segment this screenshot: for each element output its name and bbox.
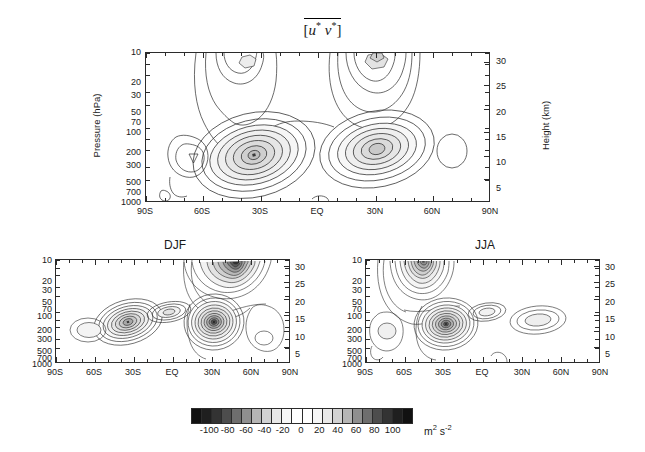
axis-tick-mark (470, 260, 471, 263)
axis-tick-mark (376, 53, 377, 58)
axis-tick-mark (173, 260, 174, 265)
axis-tick-mark (484, 156, 489, 157)
axis-tick-mark (485, 150, 489, 151)
axis-tick-mark (470, 359, 471, 362)
axis-tick-mark (484, 179, 489, 180)
panel-title-djf: DJF (60, 238, 290, 252)
axis-tick-mark (241, 53, 242, 56)
annual-height-tick-20: 20 (496, 107, 522, 117)
axis-tick-mark (594, 331, 599, 332)
axis-tick-mark (56, 268, 60, 269)
axis-tick-mark (56, 357, 57, 362)
axis-tick-mark (146, 128, 150, 129)
axis-title-height: Height (km) (540, 76, 551, 176)
jja-height-tick-20: 20 (605, 297, 629, 307)
jja-ytick-100: 100 (332, 311, 362, 321)
axis-tick-mark (595, 287, 599, 288)
axis-tick-mark (261, 53, 262, 58)
axis-tick-mark (146, 105, 150, 106)
annual-ytick-300: 300 (108, 160, 141, 170)
axis-tick-mark (444, 260, 445, 265)
axis-tick-mark (418, 359, 419, 362)
axis-tick-mark (366, 287, 370, 288)
axis-tick-mark (199, 260, 200, 263)
djf-xtick-60N: 60N (233, 367, 269, 377)
djf-height-tick-10: 10 (295, 332, 319, 342)
axis-tick-mark (285, 275, 289, 276)
colorbar-swatch (302, 409, 312, 423)
annual-height-tick-5: 5 (496, 183, 522, 193)
axis-tick-mark (251, 357, 252, 362)
axis-tick-mark (146, 75, 150, 76)
axis-tick-mark (173, 357, 174, 362)
colorbar-swatch (192, 409, 201, 423)
axis-tick-mark (548, 260, 549, 263)
djf-xtick-90S: 90S (37, 367, 73, 377)
axis-tick-mark (548, 359, 549, 362)
colorbar-swatch (211, 409, 221, 423)
axis-tick-mark (184, 53, 185, 56)
jja-xtick-30N: 30N (504, 367, 540, 377)
axis-tick-mark (184, 198, 185, 201)
axis-tick-mark (186, 359, 187, 362)
colorbar-unit-label: m2 s-2 (424, 423, 452, 437)
axis-tick-mark (414, 198, 415, 201)
annual-ytick-20: 20 (108, 77, 141, 87)
unit-exp-2: -2 (445, 423, 452, 432)
axis-tick-mark (121, 359, 122, 362)
axis-tick-mark (238, 359, 239, 362)
axis-tick-mark (146, 180, 150, 181)
axis-tick-mark (496, 260, 497, 263)
axis-tick-mark (285, 287, 289, 288)
jja-height-tick-30: 30 (605, 262, 629, 272)
axis-tick-mark (56, 348, 60, 349)
axis-tick-mark (318, 196, 319, 201)
axis-tick-mark (56, 327, 60, 328)
axis-tick-mark (285, 320, 289, 321)
colorbar-swatch (312, 409, 322, 423)
axis-tick-mark (251, 260, 252, 265)
djf-xtick-EQ: EQ (154, 367, 190, 377)
annual-height-tick-30: 30 (496, 56, 522, 66)
colorbar-swatch (352, 409, 362, 423)
figure-canvas: [u* v*] DJF JJA (0, 0, 645, 452)
axis-tick-mark (241, 198, 242, 201)
axis-tick-mark (587, 260, 588, 263)
axis-tick-mark (485, 105, 489, 106)
colorbar-tick-label: 100 (377, 424, 409, 435)
axis-tick-mark (484, 109, 489, 110)
djf-height-tick-20: 20 (295, 297, 319, 307)
title-bracket-close: ] (336, 22, 341, 38)
axis-tick-mark (485, 139, 489, 140)
colorbar (191, 408, 413, 424)
colorbar-swatch (251, 409, 261, 423)
axis-tick-mark (56, 339, 60, 340)
axis-tick-mark (379, 260, 380, 263)
jja-xtick-30S: 30S (425, 367, 461, 377)
axis-tick-mark (561, 357, 562, 362)
djf-ytick-300: 300 (22, 334, 52, 344)
axis-tick-mark (285, 296, 289, 297)
axis-tick-mark (594, 347, 599, 348)
colorbar-swatch (261, 409, 271, 423)
axis-tick-mark (594, 299, 599, 300)
axis-tick-mark (366, 339, 370, 340)
jja-height-tick-25: 25 (605, 279, 629, 289)
axis-tick-mark (56, 260, 57, 265)
jja-xtick-90N: 90N (582, 367, 618, 377)
axis-tick-mark (284, 331, 289, 332)
axis-tick-mark (82, 359, 83, 362)
annual-xtick-60N: 60N (412, 206, 452, 216)
colorbar-swatch (372, 409, 382, 423)
contour-field-jja (366, 260, 600, 363)
axis-tick-mark (280, 53, 281, 56)
axis-tick-mark (277, 359, 278, 362)
axis-tick-mark (535, 260, 536, 263)
axis-tick-mark (356, 198, 357, 201)
unit-m: m (424, 425, 433, 437)
axis-tick-mark (134, 260, 135, 265)
axis-tick-mark (299, 198, 300, 201)
colorbar-swatch (231, 409, 241, 423)
axis-tick-mark (147, 260, 148, 263)
axis-tick-mark (496, 359, 497, 362)
